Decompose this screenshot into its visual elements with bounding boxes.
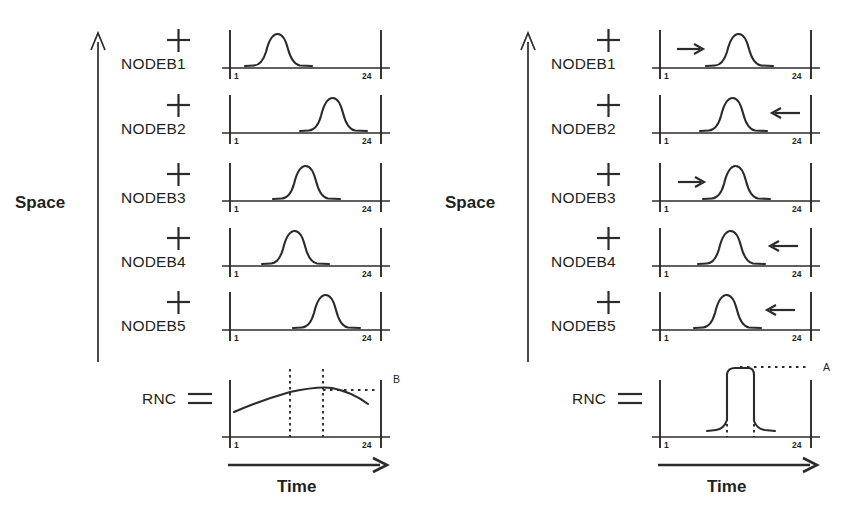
tick-end-label: 24 bbox=[362, 136, 372, 146]
tick-start-label: 1 bbox=[234, 71, 239, 81]
tick-end-label: 24 bbox=[792, 204, 802, 214]
marker-label-b: B bbox=[393, 373, 400, 385]
nodeb-label: NODEB3 bbox=[551, 189, 616, 206]
nodeb-label: NODEB2 bbox=[551, 120, 616, 137]
nodeb-label: NODEB2 bbox=[121, 120, 186, 137]
tick-start-label: 1 bbox=[664, 333, 669, 343]
tick-end-label: 24 bbox=[362, 204, 372, 214]
tick-end-label: 24 bbox=[792, 71, 802, 81]
tick-start-label: 1 bbox=[664, 136, 669, 146]
tick-end-label: 24 bbox=[792, 333, 802, 343]
nodeb-label: NODEB5 bbox=[551, 317, 616, 334]
nodeb-label: NODEB4 bbox=[551, 253, 616, 270]
tick-end-label: 24 bbox=[792, 136, 802, 146]
tick-start-label: 1 bbox=[664, 204, 669, 214]
nodeb-label: NODEB5 bbox=[121, 317, 186, 334]
tick-start-label: 1 bbox=[234, 136, 239, 146]
nodeb-label: NODEB1 bbox=[551, 55, 616, 72]
tick-end-label: 24 bbox=[362, 440, 372, 450]
tick-start-label: 1 bbox=[664, 269, 669, 279]
space-time-diagram: Space NODEB1 1 24 NODEB2 bbox=[0, 0, 863, 509]
tick-start-label: 1 bbox=[234, 440, 239, 450]
tick-start-label: 1 bbox=[234, 269, 239, 279]
rnc-label: RNC bbox=[572, 390, 606, 407]
tick-start-label: 1 bbox=[234, 333, 239, 343]
time-axis-label: Time bbox=[277, 477, 316, 496]
rnc-label: RNC bbox=[142, 390, 176, 407]
nodeb-label: NODEB3 bbox=[121, 189, 186, 206]
nodeb-label: NODEB1 bbox=[121, 55, 186, 72]
space-axis-label: Space bbox=[445, 193, 495, 212]
tick-end-label: 24 bbox=[362, 333, 372, 343]
tick-end-label: 24 bbox=[362, 269, 372, 279]
nodeb-label: NODEB4 bbox=[121, 253, 186, 270]
tick-start-label: 1 bbox=[664, 440, 669, 450]
tick-end-label: 24 bbox=[792, 269, 802, 279]
tick-end-label: 24 bbox=[362, 71, 372, 81]
marker-label-a: A bbox=[823, 361, 830, 373]
time-axis-label: Time bbox=[707, 477, 746, 496]
tick-end-label: 24 bbox=[792, 440, 802, 450]
tick-start-label: 1 bbox=[664, 71, 669, 81]
tick-start-label: 1 bbox=[234, 204, 239, 214]
space-axis-label: Space bbox=[15, 193, 65, 212]
